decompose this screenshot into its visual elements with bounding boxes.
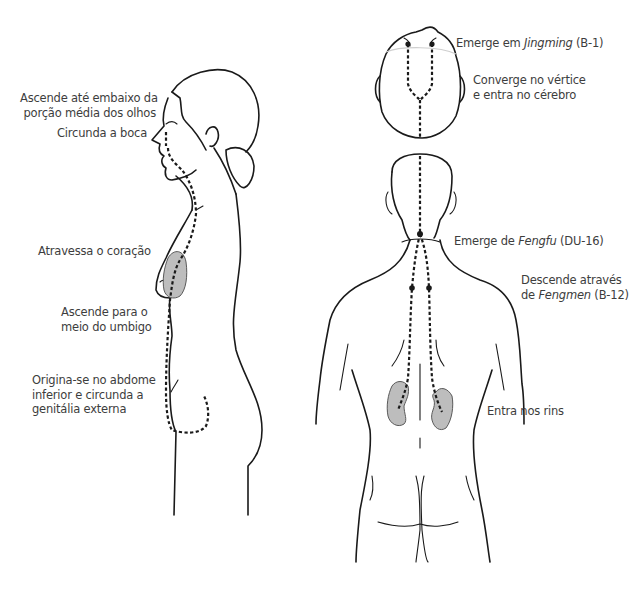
fengmen-point-left [409,285,415,291]
label-navel: Ascende para o meio do umbigo [61,305,152,334]
label-eyes-line1: Ascende até embaixo da [20,91,156,106]
label-mouth: Circunda a boca [57,126,147,141]
label-fengmen: Descende através de Fengmen (B-12) [521,273,629,302]
jingming-point-left [405,41,410,46]
kidney-right [432,389,453,430]
label-navel-line2: meio do umbigo [61,320,152,335]
label-origin: Origina-se no abdome inferior e circunda… [32,373,156,417]
label-eyes-line2: porção média dos olhos [20,106,156,121]
label-eyes: Ascende até embaixo da porção média dos … [20,91,156,120]
label-jingming-point: Jingming [524,36,573,50]
label-vertex-line2: e entra no cérebro [473,88,586,103]
side-view-figure [152,70,262,515]
label-kidneys: Entra nos rins [487,404,564,419]
label-origin-line1: Origina-se no abdome [32,373,156,388]
label-fengfu-prefix: Emerge de [454,234,518,248]
label-kidneys-text: Entra nos rins [487,404,564,418]
fengmen-point-right [426,285,432,291]
jingming-point-right [429,41,434,46]
label-origin-line2: inferior e circunda a [32,388,156,403]
kidney-left [387,382,408,426]
heart-organ [163,252,187,298]
head-top-channel-path [408,44,432,138]
label-jingming: Emerge em Jingming (B-1) [456,36,603,51]
label-jingming-prefix: Emerge em [456,36,524,50]
label-fengfu-point: Fengfu [518,234,556,248]
fengfu-point [417,231,423,237]
back-view-figure [316,154,524,562]
label-heart: Atravessa o coração [38,244,151,259]
head-top-view-figure [376,27,465,138]
label-heart-text: Atravessa o coração [38,244,151,258]
label-jingming-code: (B-1) [573,36,604,50]
label-vertex: Converge no vértice e entra no cérebro [473,73,586,102]
label-vertex-line1: Converge no vértice [473,73,586,88]
label-fengfu-code: (DU-16) [557,234,604,248]
label-fengmen-line2: de Fengmen (B-12) [521,288,629,303]
label-fengmen-point: Fengmen [538,288,590,302]
label-fengmen-code: (B-12) [591,288,629,302]
label-origin-line3: genitália externa [32,402,156,417]
label-fengmen-line1: Descende através [521,273,629,288]
label-fengfu: Emerge de Fengfu (DU-16) [454,234,604,249]
label-mouth-text: Circunda a boca [57,126,147,140]
back-channel-right [420,234,442,412]
label-fengmen-prefix: de [521,288,538,302]
label-navel-line1: Ascende para o [61,305,152,320]
